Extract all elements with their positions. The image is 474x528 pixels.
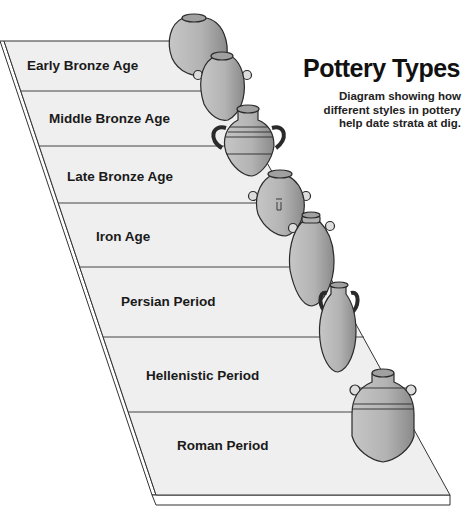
layer-label-middle-bronze-age: Middle Bronze Age [49, 111, 170, 126]
description-line: Diagram showing how [291, 90, 461, 104]
layer-label-persian-period: Persian Period [121, 294, 216, 309]
description-line: different styles in pottery [291, 104, 461, 118]
layer-label-early-bronze-age: Early Bronze Age [27, 58, 139, 73]
layer-label-late-bronze-age: Late Bronze Age [67, 169, 174, 184]
layer-label-iron-age: Iron Age [96, 229, 151, 244]
layer-label-roman-period: Roman Period [177, 438, 269, 453]
page-title: Pottery Types [303, 54, 460, 83]
layer-label-hellenistic-period: Hellenistic Period [146, 368, 259, 383]
diagram-description: Diagram showing how different styles in … [291, 90, 461, 131]
pottery-strata-diagram: Early Bronze Age Middle Bronze Age Late … [0, 0, 474, 528]
description-line: help date strata at dig. [291, 117, 461, 131]
